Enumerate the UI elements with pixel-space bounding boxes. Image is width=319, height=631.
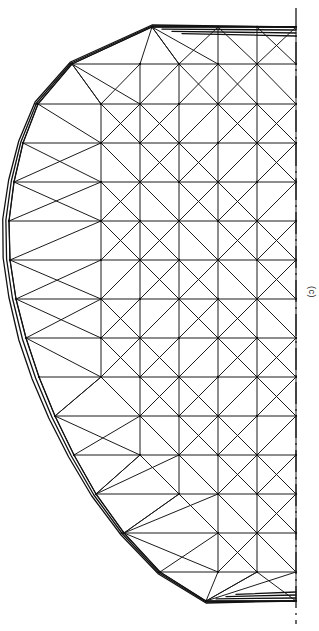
mesh-canvas — [0, 0, 319, 631]
mesh-boundary-outline — [3, 25, 296, 603]
mesh-interior-edges — [9, 27, 296, 601]
finite-element-mesh-figure: (c) — [0, 0, 319, 631]
panel-label: (c) — [307, 286, 317, 298]
